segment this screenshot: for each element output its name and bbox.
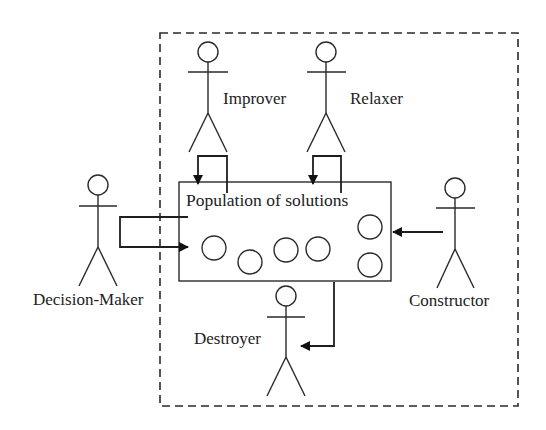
constructor-label: Constructor (409, 291, 490, 310)
decision-maker-label: Decision-Maker (33, 290, 144, 309)
stick-figure-icon (79, 175, 117, 286)
population-box: Population of solutions (179, 182, 391, 281)
solution-icon (306, 237, 330, 261)
actor-decision-maker: Decision-Maker (33, 175, 144, 309)
solution-icon (358, 253, 382, 277)
actor-improver: Improver (188, 42, 287, 152)
improver-flow (198, 156, 227, 193)
solution-icon (238, 250, 262, 274)
population-label: Population of solutions (186, 190, 349, 210)
stick-figure-icon (188, 42, 228, 152)
relaxer-label: Relaxer (350, 89, 403, 108)
solution-icon (358, 215, 382, 239)
relaxer-flow (313, 156, 341, 193)
actor-destroyer: Destroyer (194, 286, 305, 396)
destroyer-label: Destroyer (194, 329, 261, 348)
diagram-canvas: Population of solutions Improver (0, 0, 546, 430)
solution-icon (274, 238, 298, 262)
decision-maker-flow (120, 217, 188, 247)
actor-relaxer: Relaxer (307, 42, 403, 152)
destroyer-flow (301, 282, 334, 346)
system-boundary (160, 33, 518, 406)
improver-label: Improver (223, 89, 287, 108)
stick-figure-icon (436, 178, 475, 288)
stick-figure-icon (267, 286, 305, 396)
actor-constructor: Constructor (409, 178, 490, 310)
solution-icon (202, 236, 226, 260)
stick-figure-icon (307, 42, 346, 152)
solution-circles (202, 215, 382, 277)
